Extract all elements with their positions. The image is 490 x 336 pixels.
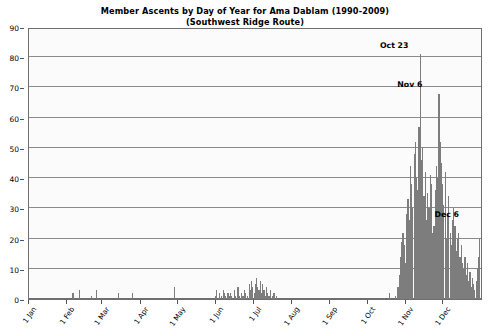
x-tick-mark	[291, 300, 292, 304]
bar	[395, 296, 396, 299]
x-tick-mark	[329, 300, 330, 304]
y-tick-label: 20	[9, 235, 19, 244]
chart-root: Member Ascents by Day of Year for Ama Da…	[0, 0, 490, 336]
y-tick-mark	[20, 240, 24, 241]
y-tick-mark	[20, 179, 24, 180]
bar	[79, 290, 80, 299]
plot-area	[28, 28, 482, 300]
x-tick-label: 1 Feb	[58, 305, 77, 326]
y-tick-mark	[20, 119, 24, 120]
x-tick-mark	[253, 300, 254, 304]
x-tick-mark	[442, 300, 443, 304]
bar	[389, 293, 390, 299]
bar	[216, 290, 217, 299]
y-tick-mark	[20, 300, 24, 301]
bar	[245, 293, 246, 299]
y-tick-mark	[20, 88, 24, 89]
bar	[235, 296, 236, 299]
x-tick-mark	[101, 300, 102, 304]
x-tick-label: 1 Oct	[359, 305, 377, 326]
bar	[96, 290, 97, 299]
y-tick-label: 50	[9, 144, 19, 153]
y-tick-label: 40	[9, 175, 19, 184]
x-tick-mark	[215, 300, 216, 304]
chart-subtitle: (Southwest Ridge Route)	[0, 17, 490, 28]
bar	[273, 293, 274, 299]
x-tick-mark	[28, 300, 29, 304]
chart-title-block: Member Ascents by Day of Year for Ama Da…	[0, 6, 490, 28]
page-title: Member Ascents by Day of Year for Ama Da…	[0, 6, 490, 17]
bar	[225, 296, 226, 299]
y-tick-label: 30	[9, 205, 19, 214]
x-tick-mark	[405, 300, 406, 304]
y-tick-mark	[20, 270, 24, 271]
x-tick-label: 1 May	[167, 305, 187, 328]
y-tick-mark	[20, 58, 24, 59]
bar	[239, 296, 240, 299]
y-tick-mark	[20, 209, 24, 210]
x-tick-label: 1 Mar	[92, 305, 111, 327]
y-axis: 0102030405060708090	[0, 28, 24, 300]
bar	[118, 293, 119, 299]
y-tick-label: 0	[14, 296, 19, 305]
y-tick-label: 80	[9, 54, 19, 63]
y-tick-label: 90	[9, 24, 19, 33]
bar	[132, 293, 133, 299]
y-tick-mark	[20, 149, 24, 150]
x-tick-mark	[140, 300, 141, 304]
y-tick-mark	[20, 28, 24, 29]
bar	[91, 296, 92, 299]
bar	[481, 223, 482, 299]
bar	[174, 287, 175, 299]
x-tick-label: 1 Aug	[282, 305, 301, 327]
y-tick-label: 70	[9, 84, 19, 93]
x-axis: 1 Jan1 Feb1 Mar1 Apr1 May1 Jun1 Jul1 Aug…	[28, 300, 482, 336]
x-tick-mark	[177, 300, 178, 304]
chart-annotation: Nov 6	[397, 80, 422, 89]
y-tick-label: 10	[9, 265, 19, 274]
chart-annotation: Dec 6	[435, 210, 460, 219]
x-tick-label: 1 Nov	[396, 305, 415, 327]
x-tick-mark	[367, 300, 368, 304]
bar	[72, 293, 73, 299]
x-tick-mark	[66, 300, 67, 304]
bar	[219, 293, 220, 299]
x-tick-label: 1 Dec	[433, 305, 452, 327]
bars-layer	[29, 29, 481, 299]
x-tick-label: 1 Apr	[132, 305, 150, 326]
bar	[270, 290, 271, 299]
bar	[231, 296, 232, 299]
x-tick-label: 1 Sep	[321, 305, 340, 327]
x-tick-label: 1 Jan	[21, 305, 39, 325]
x-tick-label: 1 Jun	[208, 305, 226, 325]
y-tick-label: 60	[9, 114, 19, 123]
chart-annotation: Oct 23	[380, 41, 409, 50]
bar	[276, 296, 277, 299]
x-tick-label: 1 Jul	[247, 305, 263, 323]
